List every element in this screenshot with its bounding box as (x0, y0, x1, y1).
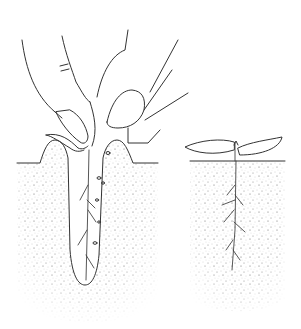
left-soil (10, 140, 165, 329)
right-soil (185, 150, 295, 329)
seedling-planting-illustration: Line drawing: hand planting a seedling i… (0, 0, 301, 329)
drawing (0, 0, 301, 329)
hand (22, 30, 188, 151)
